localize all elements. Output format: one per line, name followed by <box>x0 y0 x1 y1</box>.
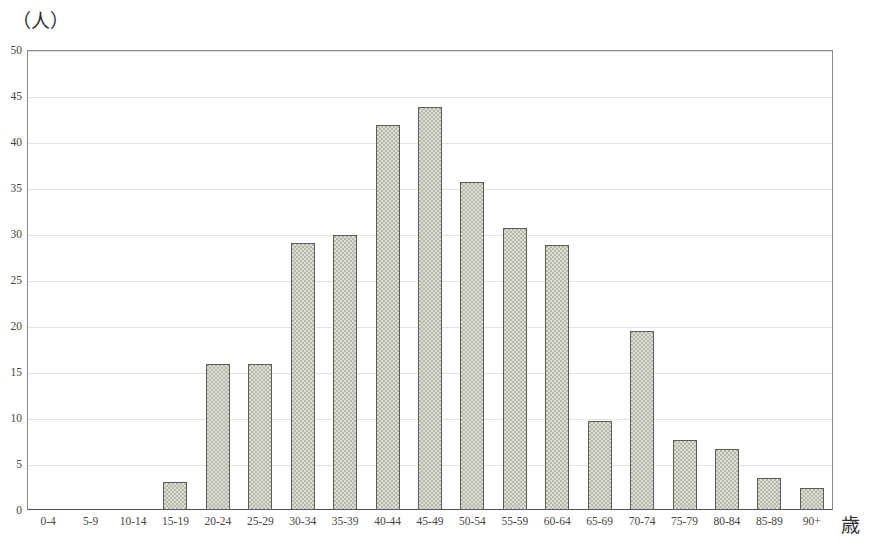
y-axis-tick-label: 50 <box>0 44 22 56</box>
bar <box>163 482 187 510</box>
x-axis-tick-label: 90+ <box>803 515 821 527</box>
y-axis-unit-label: （人） <box>12 6 69 33</box>
bar <box>418 107 442 510</box>
bar <box>588 421 612 510</box>
x-axis-tick-label: 55-59 <box>501 515 528 527</box>
bar-slot <box>748 50 790 510</box>
x-axis-tick-labels: 0-45-910-1415-1920-2425-2930-3435-3940-4… <box>27 515 833 539</box>
bar <box>503 228 527 510</box>
bar-slot <box>536 50 578 510</box>
y-axis-tick-label: 30 <box>0 228 22 240</box>
y-axis-tick-label: 0 <box>0 504 22 516</box>
x-axis-tick-label: 30-34 <box>289 515 316 527</box>
bars-layer <box>27 50 833 510</box>
y-axis-tick-label: 20 <box>0 320 22 332</box>
bar-slot <box>621 50 663 510</box>
y-axis-tick-label: 10 <box>0 412 22 424</box>
bar-chart: （人） 05101520253035404550 0-45-910-1415-1… <box>0 0 871 554</box>
bar-slot <box>366 50 408 510</box>
x-axis-tick-label: 25-29 <box>247 515 274 527</box>
bar-slot <box>239 50 281 510</box>
bar-slot <box>154 50 196 510</box>
x-axis-tick-label: 40-44 <box>374 515 401 527</box>
y-axis-tick-label: 15 <box>0 366 22 378</box>
bar-slot <box>578 50 620 510</box>
bar <box>206 364 230 510</box>
bar-slot <box>706 50 748 510</box>
x-axis-tick-label: 15-19 <box>162 515 189 527</box>
bar-slot <box>663 50 705 510</box>
y-axis-tick-label: 5 <box>0 458 22 470</box>
bar-slot <box>27 50 69 510</box>
x-axis-tick-label: 85-89 <box>756 515 783 527</box>
x-axis-tick-label: 65-69 <box>586 515 613 527</box>
x-axis-tick-label: 80-84 <box>714 515 741 527</box>
bar-slot <box>197 50 239 510</box>
x-axis-tick-label: 70-74 <box>629 515 656 527</box>
bar-slot <box>112 50 154 510</box>
x-axis-tick-label: 60-64 <box>544 515 571 527</box>
bar <box>630 331 654 510</box>
y-axis-tick-labels: 05101520253035404550 <box>0 50 22 510</box>
bar <box>545 245 569 510</box>
bar-slot <box>494 50 536 510</box>
bar <box>715 449 739 510</box>
y-axis-tick-label: 35 <box>0 182 22 194</box>
bar-slot <box>791 50 833 510</box>
bar-slot <box>69 50 111 510</box>
x-axis-tick-label: 75-79 <box>671 515 698 527</box>
x-axis-tick-label: 0-4 <box>41 515 56 527</box>
x-axis-unit-label: 歳 <box>841 510 860 537</box>
bar-slot <box>451 50 493 510</box>
y-axis-tick-label: 25 <box>0 274 22 286</box>
bar-slot <box>324 50 366 510</box>
x-axis-tick-label: 10-14 <box>120 515 147 527</box>
x-axis-tick-label: 35-39 <box>332 515 359 527</box>
bar <box>800 488 824 510</box>
bar <box>248 364 272 510</box>
bar <box>673 440 697 510</box>
bar <box>460 182 484 510</box>
x-axis-tick-label: 20-24 <box>204 515 231 527</box>
y-axis-tick-label: 40 <box>0 136 22 148</box>
bar <box>757 478 781 510</box>
bar-slot <box>409 50 451 510</box>
x-axis-tick-label: 50-54 <box>459 515 486 527</box>
bar <box>333 235 357 510</box>
bar <box>376 125 400 510</box>
bar-slot <box>282 50 324 510</box>
x-axis-tick-label: 45-49 <box>417 515 444 527</box>
y-axis-tick-label: 45 <box>0 90 22 102</box>
x-axis-tick-label: 5-9 <box>83 515 98 527</box>
bar <box>291 243 315 510</box>
